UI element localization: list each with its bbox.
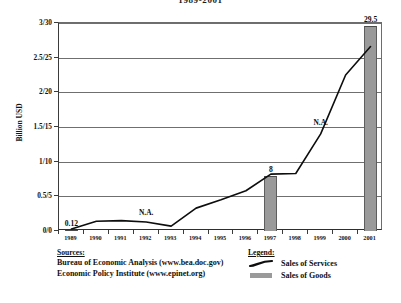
- x-axis-tick-mark: [108, 230, 109, 234]
- x-axis-tick-label: 1989: [64, 234, 76, 241]
- legend-line-icon: [248, 259, 274, 268]
- x-axis-tick-label: 1996: [239, 234, 251, 241]
- x-axis-tick-label: 1991: [114, 234, 126, 241]
- legend-bar-icon: [248, 271, 274, 280]
- legend-items: Sales of ServicesSales of Goods: [248, 258, 337, 281]
- na-label: N.A.: [139, 208, 153, 217]
- x-axis-tick-mark: [158, 230, 159, 234]
- y-axis-tick-label: 2/20: [8, 87, 52, 96]
- na-label: N.A.: [314, 118, 328, 127]
- legend-item: Sales of Services: [248, 258, 337, 269]
- x-axis-tick-mark: [183, 230, 184, 234]
- y-axis-tick-label: 1/10: [8, 156, 52, 165]
- sources-lines: Bureau of Economic Analysis (www.bea.doc…: [57, 257, 223, 279]
- x-axis-tick-mark: [307, 230, 308, 234]
- x-axis-tick-mark: [332, 230, 333, 234]
- bar-value-label: 29.5: [364, 15, 377, 24]
- y-axis-tick-label: 2.5/25: [8, 52, 52, 61]
- legend-block: Legend: Sales of ServicesSales of Goods: [248, 248, 337, 281]
- y-axis-tick-label: 0.5/5: [8, 191, 52, 200]
- x-axis-tick-label: 1993: [164, 234, 176, 241]
- x-axis-tick-mark: [282, 230, 283, 234]
- legend-heading: Legend:: [248, 248, 337, 257]
- legend-label: Sales of Goods: [281, 271, 331, 280]
- chart-footer: Sources: Bureau of Economic Analysis (ww…: [0, 248, 401, 303]
- x-axis-tick-label: 1998: [289, 234, 301, 241]
- bar-value-label: 8: [269, 165, 273, 174]
- x-axis-tick-mark: [232, 230, 233, 234]
- chart-figure: 1989-2001 Billion USD 3/302.5/252/201.5/…: [0, 0, 401, 303]
- y-axis-tick-label: 0/0: [8, 226, 52, 235]
- x-axis-tick-mark: [133, 230, 134, 234]
- chart-title: 1989-2001: [0, 0, 401, 5]
- x-axis-tick-label: 1999: [314, 234, 326, 241]
- legend-swatch: [250, 273, 272, 278]
- x-axis-tick-label: 1994: [189, 234, 201, 241]
- plot-area: 0.12829.5 N.A.N.A.: [58, 22, 382, 230]
- line-series-sales-of-services: [59, 23, 383, 231]
- x-axis-tick-label: 1995: [214, 234, 226, 241]
- x-axis-tick-mark: [357, 230, 358, 234]
- x-axis-tick-mark: [58, 230, 59, 234]
- legend-item: Sales of Goods: [248, 270, 337, 281]
- bar-value-label: 0.12: [65, 219, 78, 228]
- source-line: Economic Policy Institute (www.epinet.or…: [57, 268, 223, 279]
- x-axis-tick-mark: [208, 230, 209, 234]
- x-axis-tick-label: 1997: [264, 234, 276, 241]
- source-line: Bureau of Economic Analysis (www.bea.doc…: [57, 257, 223, 268]
- x-axis-tick-label: 1992: [139, 234, 151, 241]
- x-axis-tick-mark: [257, 230, 258, 234]
- y-axis-tick-label: 1.5/15: [8, 122, 52, 131]
- sources-heading: Sources:: [57, 248, 223, 257]
- x-axis-tick-label: 2001: [363, 234, 375, 241]
- x-axis-tick-label: 2000: [338, 234, 350, 241]
- x-axis-tick-label: 1990: [89, 234, 101, 241]
- sources-block: Sources: Bureau of Economic Analysis (ww…: [57, 248, 223, 279]
- y-axis-tick-label: 3/30: [8, 18, 52, 27]
- x-axis-tick-mark: [83, 230, 84, 234]
- legend-label: Sales of Services: [281, 259, 337, 268]
